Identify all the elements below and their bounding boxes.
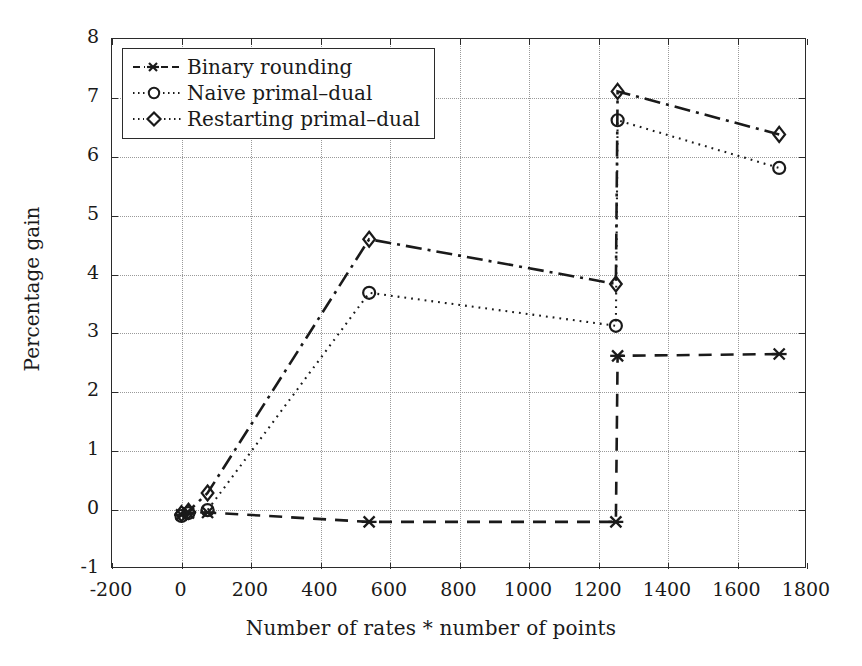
x-tick-label: 1000 <box>488 578 568 600</box>
chart-figure: Percentage gain Number of rates * number… <box>0 0 862 666</box>
y-tick-label: 0 <box>39 496 99 518</box>
x-tick-label: -200 <box>71 578 151 600</box>
x-tick-label: 1600 <box>697 578 777 600</box>
x-tick-label: 1400 <box>627 578 707 600</box>
x-tick-label: 200 <box>210 578 290 600</box>
x-tick-label: 0 <box>141 578 221 600</box>
legend-label: Restarting primal–dual <box>183 107 420 131</box>
series-naive-primal-dual <box>176 114 786 522</box>
y-tick-label: 7 <box>39 84 99 106</box>
data-point <box>608 516 623 527</box>
data-point <box>772 349 787 360</box>
legend-item-binary-rounding: Binary rounding <box>131 54 420 80</box>
y-tick-label: 2 <box>39 378 99 400</box>
series-line <box>182 354 780 522</box>
series-binary-rounding <box>174 349 787 528</box>
series-restarting-primal-dual <box>176 84 785 521</box>
data-point <box>773 162 785 174</box>
data-point <box>202 504 214 516</box>
series-line <box>182 91 780 513</box>
legend-marker-x-icon <box>131 57 183 77</box>
y-tick-label: 6 <box>39 143 99 165</box>
y-tick-label: -1 <box>39 555 99 577</box>
data-point <box>362 516 377 527</box>
x-tick-label: 1800 <box>766 578 846 600</box>
legend-item-restarting-primal-dual: Restarting primal–dual <box>131 106 420 132</box>
legend-label: Binary rounding <box>183 55 352 79</box>
y-tick-label: 4 <box>39 261 99 283</box>
y-tick-label: 5 <box>39 202 99 224</box>
data-point <box>363 287 375 299</box>
legend-label: Naive primal–dual <box>183 81 372 105</box>
y-tick-label: 8 <box>39 25 99 47</box>
legend-marker-circle-icon <box>131 83 183 103</box>
x-axis-title: Number of rates * number of points <box>0 616 862 640</box>
legend-item-naive-primal-dual: Naive primal–dual <box>131 80 420 106</box>
y-tick-label: 3 <box>39 319 99 341</box>
x-tick-label: 1200 <box>558 578 638 600</box>
y-tick-label: 1 <box>39 437 99 459</box>
x-tick-label: 800 <box>419 578 499 600</box>
x-tick-label: 400 <box>280 578 360 600</box>
chart-legend: Binary rounding Naive primal–dual Restar… <box>122 48 435 139</box>
x-axis-tick <box>807 563 808 569</box>
x-axis-tick <box>807 39 808 45</box>
legend-marker-diamond-icon <box>131 109 183 129</box>
series-line <box>182 120 780 516</box>
x-tick-label: 600 <box>349 578 429 600</box>
